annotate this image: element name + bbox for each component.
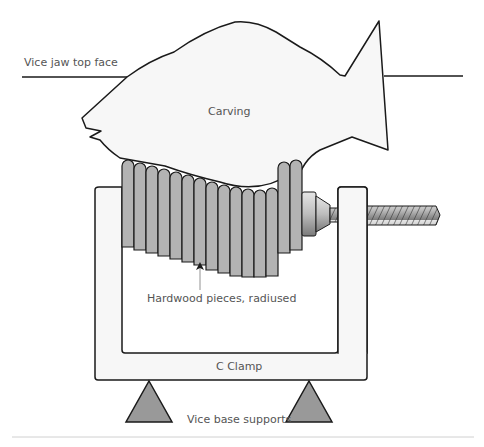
label-carving: Carving: [208, 105, 250, 118]
hardwood-piece: [290, 160, 302, 250]
c-clamp-right-jaw: [338, 187, 367, 353]
hardwood-piece: [230, 187, 242, 276]
label-vice-jaw-top-face: Vice jaw top face: [24, 56, 118, 69]
hardwood-piece: [218, 185, 230, 273]
label-hardwood-pieces: Hardwood pieces, radiused: [147, 292, 296, 305]
screw-neck: [330, 208, 338, 222]
hardwood-piece: [266, 188, 278, 276]
screw-cone: [316, 196, 330, 232]
label-vice-base-supports: Vice base supports: [187, 413, 292, 426]
screw-pad: [302, 192, 316, 236]
hardwood-piece: [158, 169, 170, 256]
hardwood-piece: [242, 189, 254, 277]
hardwood-piece: [254, 190, 266, 277]
hardwood-piece: [206, 182, 218, 270]
hardwood-piece: [134, 163, 146, 250]
vice-support-left: [126, 381, 172, 422]
hardwood-piece: [182, 175, 194, 262]
screw-thread: [367, 206, 440, 225]
vice-support-right: [286, 381, 332, 422]
hardwood-piece: [146, 166, 158, 253]
hardwood-piece: [170, 172, 182, 259]
hardwood-piece: [122, 160, 134, 247]
label-c-clamp: C Clamp: [216, 360, 262, 373]
hardwood-piece: [194, 178, 206, 265]
carving-vice-diagram: Vice jaw top face Carving Hardwood piece…: [0, 0, 484, 447]
hardwood-piece: [278, 162, 290, 253]
